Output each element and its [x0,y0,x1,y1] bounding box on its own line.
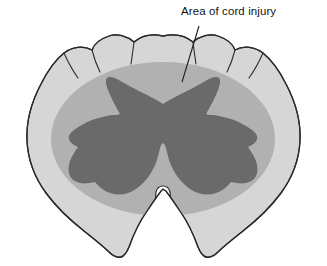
annotation-label-area-of-cord-injury: Area of cord injury [181,5,276,17]
spinal-cord-injury-diagram: Area of cord injury [0,0,327,266]
spinal-cord-cross-section-figure [0,0,327,266]
